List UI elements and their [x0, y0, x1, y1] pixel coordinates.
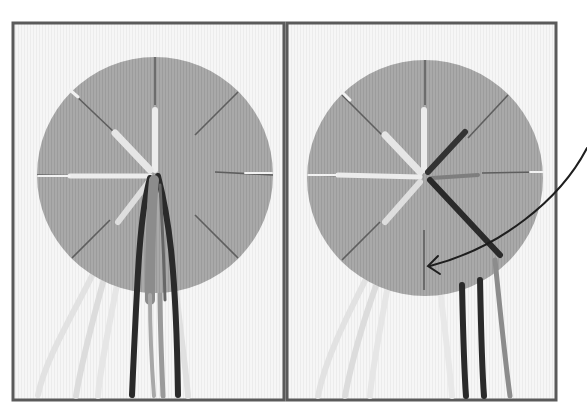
figure — [0, 0, 587, 417]
panel-before — [13, 23, 284, 400]
panel-after — [287, 23, 556, 400]
illustration — [0, 0, 587, 417]
